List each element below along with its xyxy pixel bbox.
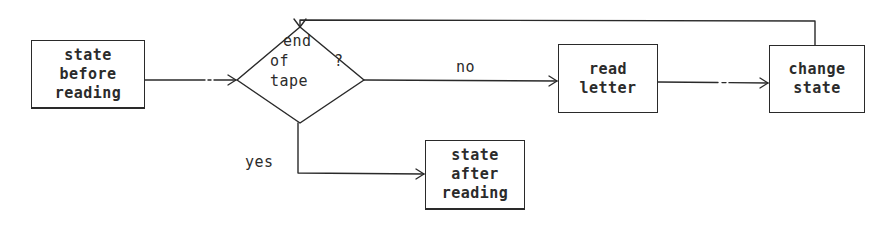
node-text-line: letter — [579, 79, 636, 98]
node-text-line: reading — [442, 184, 509, 203]
flowchart-canvas: state before reading end of ? tape no re… — [0, 0, 893, 227]
node-text-line: after — [451, 165, 499, 184]
node-text-line: state — [793, 79, 841, 98]
node-text-line: change — [788, 60, 845, 79]
decision-question-mark: ? — [334, 52, 344, 71]
edge-decision-to-end-yes — [298, 123, 424, 179]
decision-text-of: of — [270, 52, 289, 71]
edge-start-to-decision — [145, 75, 236, 85]
node-text-line: state — [451, 146, 499, 165]
node-state-after-reading: state after reading — [425, 140, 525, 210]
node-read-letter: read letter — [558, 44, 658, 113]
node-text-line: before — [59, 65, 116, 84]
node-text-line: state — [64, 46, 112, 65]
node-text-line: reading — [55, 84, 122, 103]
edge-change-to-decision-loop — [294, 19, 815, 45]
edge-label-no: no — [456, 58, 475, 76]
edge-label-yes: yes — [245, 153, 274, 171]
node-text-line: read — [589, 60, 627, 79]
edge-decision-to-read-no — [364, 76, 557, 86]
node-state-before-reading: state before reading — [31, 40, 145, 109]
edge-read-to-change — [658, 78, 768, 88]
decision-text-tape: tape — [270, 72, 308, 91]
decision-text-end: end — [283, 32, 312, 51]
node-change-state: change state — [769, 45, 865, 113]
